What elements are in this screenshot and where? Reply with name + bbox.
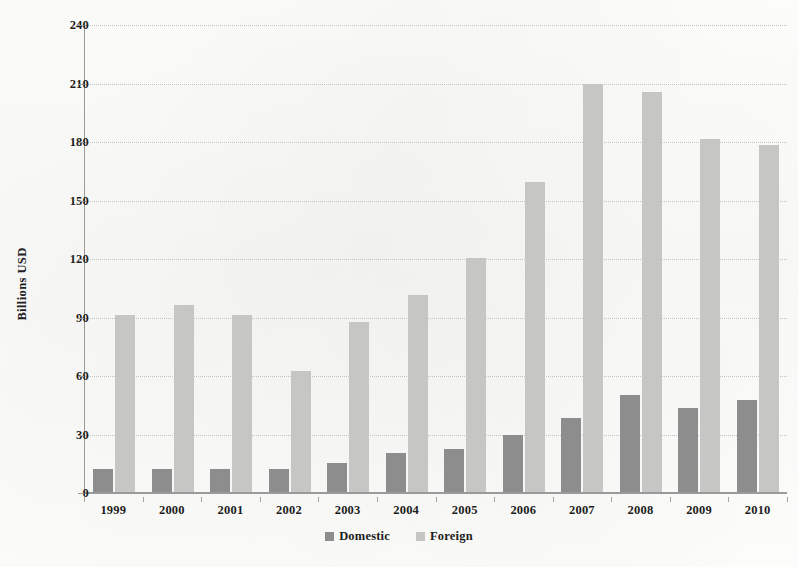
x-axis-ticks: 1999200020012002200320042005200620072008… bbox=[84, 497, 787, 523]
x-tick-label-2000: 2000 bbox=[143, 497, 202, 523]
bar-domestic-1999 bbox=[93, 469, 113, 492]
bar-domestic-2009 bbox=[678, 408, 698, 492]
bar-domestic-2001 bbox=[210, 469, 230, 492]
bar-group bbox=[495, 25, 554, 492]
x-tick-label-2005: 2005 bbox=[435, 497, 494, 523]
bar-foreign-2000 bbox=[174, 305, 194, 492]
bar-foreign-2001 bbox=[232, 315, 252, 492]
x-tick-mark bbox=[787, 497, 788, 502]
x-tick-mark bbox=[260, 497, 261, 502]
bar-group bbox=[144, 25, 203, 492]
x-tick-label-2003: 2003 bbox=[318, 497, 377, 523]
x-tick-label-2008: 2008 bbox=[611, 497, 670, 523]
x-tick-mark bbox=[84, 497, 85, 502]
bar-foreign-1999 bbox=[115, 315, 135, 492]
y-tick-mark bbox=[78, 493, 84, 494]
bar-group bbox=[319, 25, 378, 492]
y-tick-mark bbox=[78, 318, 84, 319]
bar-domestic-2000 bbox=[152, 469, 172, 492]
y-tick-mark bbox=[78, 259, 84, 260]
x-tick-mark bbox=[377, 497, 378, 502]
bar-groups bbox=[85, 25, 787, 492]
x-tick-mark bbox=[201, 497, 202, 502]
y-tick-mark bbox=[78, 435, 84, 436]
x-tick-mark bbox=[494, 497, 495, 502]
y-axis-title: Billions USD bbox=[15, 247, 30, 320]
bar-domestic-2010 bbox=[737, 400, 757, 492]
bar-group bbox=[436, 25, 495, 492]
x-tick-label-1999: 1999 bbox=[84, 497, 143, 523]
bar-foreign-2010 bbox=[759, 145, 779, 492]
bar-domestic-2003 bbox=[327, 463, 347, 492]
legend-item-foreign: Foreign bbox=[416, 529, 473, 544]
x-tick-mark bbox=[143, 497, 144, 502]
x-tick-label-2010: 2010 bbox=[728, 497, 787, 523]
bar-group bbox=[378, 25, 437, 492]
x-tick-mark bbox=[436, 497, 437, 502]
x-tick-label-2001: 2001 bbox=[201, 497, 260, 523]
bar-domestic-2007 bbox=[561, 418, 581, 492]
bar-group bbox=[85, 25, 144, 492]
bar-foreign-2004 bbox=[408, 295, 428, 492]
bar-domestic-2005 bbox=[444, 449, 464, 492]
bar-group bbox=[670, 25, 729, 492]
bar-chart-figure: Billions USD 2402101801501209060300 1999… bbox=[0, 0, 798, 567]
legend-label: Domestic bbox=[339, 529, 390, 544]
y-tick-mark bbox=[78, 84, 84, 85]
legend-item-domestic: Domestic bbox=[325, 529, 390, 544]
y-tick-mark bbox=[78, 376, 84, 377]
bar-domestic-2008 bbox=[620, 395, 640, 493]
legend-swatch-icon bbox=[416, 532, 425, 541]
bar-group bbox=[612, 25, 671, 492]
bar-foreign-2002 bbox=[291, 371, 311, 492]
x-tick-mark bbox=[611, 497, 612, 502]
x-tick-label-2004: 2004 bbox=[377, 497, 436, 523]
x-tick-mark bbox=[670, 497, 671, 502]
bar-group bbox=[553, 25, 612, 492]
legend-label: Foreign bbox=[430, 529, 473, 544]
bar-group bbox=[202, 25, 261, 492]
chart-legend: DomesticForeign bbox=[0, 529, 798, 544]
x-tick-mark bbox=[553, 497, 554, 502]
bar-domestic-2002 bbox=[269, 469, 289, 492]
bar-foreign-2003 bbox=[349, 322, 369, 492]
legend-swatch-icon bbox=[325, 532, 334, 541]
x-tick-label-2002: 2002 bbox=[260, 497, 319, 523]
x-tick-label-2009: 2009 bbox=[670, 497, 729, 523]
bar-foreign-2007 bbox=[583, 84, 603, 492]
bar-domestic-2006 bbox=[503, 435, 523, 492]
bar-foreign-2005 bbox=[466, 258, 486, 492]
bar-foreign-2006 bbox=[525, 182, 545, 492]
y-tick-mark bbox=[78, 25, 84, 26]
y-tick-mark bbox=[78, 142, 84, 143]
gridline bbox=[85, 493, 787, 494]
x-tick-label-2007: 2007 bbox=[553, 497, 612, 523]
bar-group bbox=[729, 25, 788, 492]
bar-foreign-2009 bbox=[700, 139, 720, 492]
bar-domestic-2004 bbox=[386, 453, 406, 492]
x-tick-mark bbox=[318, 497, 319, 502]
bar-group bbox=[261, 25, 320, 492]
x-tick-mark bbox=[728, 497, 729, 502]
y-tick-mark bbox=[78, 201, 84, 202]
x-tick-label-2006: 2006 bbox=[494, 497, 553, 523]
bar-foreign-2008 bbox=[642, 92, 662, 492]
plot-area bbox=[84, 25, 787, 493]
